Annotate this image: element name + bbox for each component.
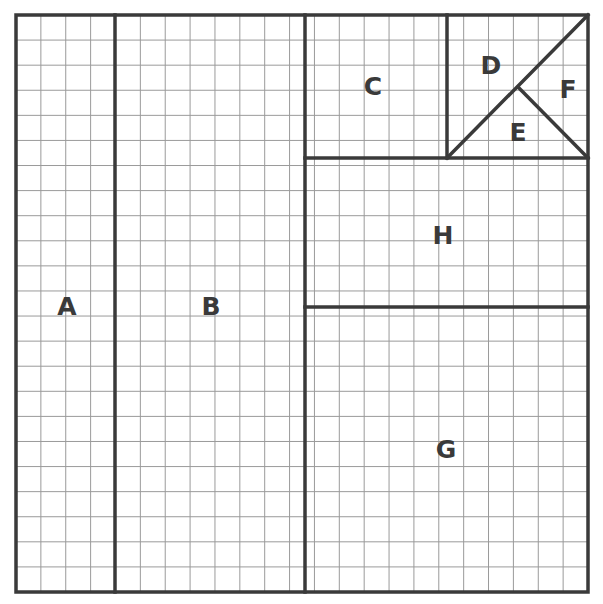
region-label-b: B: [201, 294, 220, 319]
region-label-g: G: [436, 437, 457, 462]
region-label-e: E: [509, 120, 526, 145]
dissection-figure: [0, 0, 603, 604]
divider-lines: [115, 15, 588, 592]
region-label-d: D: [481, 53, 502, 78]
diagram-canvas: ABCDEFGH: [0, 0, 603, 604]
ef-diagonal: [518, 87, 588, 158]
region-label-h: H: [433, 223, 454, 248]
region-label-c: C: [364, 74, 382, 99]
region-label-f: F: [559, 77, 576, 102]
region-label-a: A: [57, 294, 76, 319]
